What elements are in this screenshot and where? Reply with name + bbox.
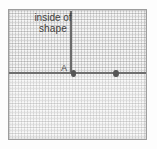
point-label-a: A <box>61 64 67 73</box>
annotation-inside-of-shape: inside of shape <box>16 12 90 34</box>
marker-dot-a <box>71 70 77 77</box>
horizontal-boundary-line <box>9 72 146 74</box>
lower-region-shading <box>9 75 146 139</box>
annotation-line-2: shape <box>16 23 90 34</box>
marker-dot-right <box>113 70 119 77</box>
annotation-line-1: inside of <box>16 12 90 23</box>
figure-root: A inside of shape <box>0 0 157 149</box>
plot-frame: A inside of shape <box>8 9 147 140</box>
